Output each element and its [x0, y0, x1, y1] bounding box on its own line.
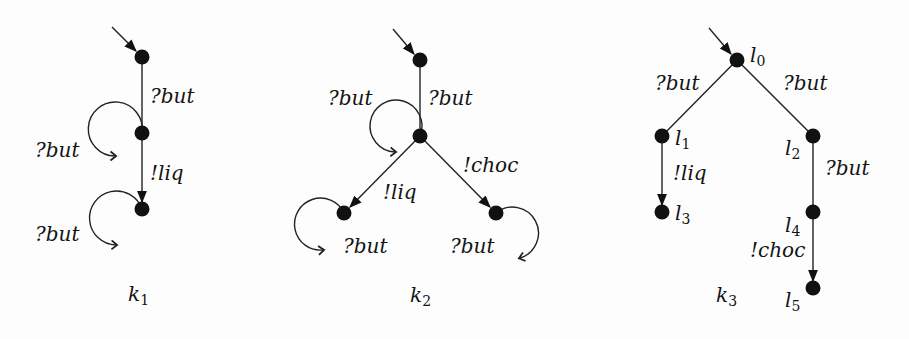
node-label-l1: l1	[675, 128, 690, 151]
edge-label: ?but	[150, 86, 194, 106]
loop-label: ?but	[35, 224, 79, 244]
edge-label: !choc	[463, 155, 518, 175]
node-label-sub: 2	[791, 146, 800, 162]
node-label-sub: 3	[681, 211, 690, 227]
node-label-l4: l4	[785, 215, 800, 238]
loop-label: ?but	[328, 88, 372, 108]
node-label-sub: 0	[756, 53, 765, 69]
edge-label: !liq	[673, 163, 707, 183]
caption-base: k	[128, 282, 140, 306]
loop-label: ?but	[450, 236, 494, 256]
node-label-sub: 5	[791, 298, 800, 314]
caption-sub: 2	[422, 293, 431, 309]
caption-sub: 1	[140, 292, 149, 308]
node-label-l3: l3	[675, 203, 690, 226]
edge-label: ?but	[428, 88, 472, 108]
node-label-sub: 4	[791, 223, 800, 239]
node-label-l2: l2	[785, 138, 800, 161]
initial-arrow	[709, 28, 731, 54]
edge-label: ?but	[783, 73, 827, 93]
state-node	[337, 206, 352, 221]
node-label-l5: l5	[785, 290, 800, 313]
edge-label: ?but	[825, 158, 869, 178]
self-loop-t1	[370, 100, 422, 152]
state-node-l4	[806, 205, 821, 220]
automaton-k1	[88, 27, 149, 245]
state-node	[413, 53, 428, 68]
caption-base: k	[410, 283, 422, 307]
state-node	[135, 50, 150, 65]
state-node-l3	[655, 205, 670, 220]
caption-k2: k2	[410, 285, 431, 308]
automaton-k2	[294, 29, 538, 258]
self-loop-t2	[294, 198, 344, 250]
initial-arrow	[112, 27, 136, 51]
state-node-l0	[730, 53, 745, 68]
loop-label: ?but	[343, 236, 387, 256]
caption-base: k	[716, 283, 728, 307]
caption-k3: k3	[716, 285, 737, 308]
node-label-l0: l0	[750, 45, 765, 68]
edge-label: !choc	[750, 240, 805, 260]
state-node-l5	[806, 281, 821, 296]
state-node	[413, 129, 428, 144]
caption-sub: 3	[728, 293, 737, 309]
state-node	[135, 202, 150, 217]
caption-k1: k1	[128, 284, 149, 307]
state-node-l1	[655, 129, 670, 144]
self-loop-s2	[90, 191, 142, 245]
state-node	[135, 126, 150, 141]
node-label-sub: 1	[681, 136, 690, 152]
state-node	[489, 206, 504, 221]
edge-label: ?but	[655, 73, 699, 93]
initial-arrow	[393, 29, 414, 54]
loop-label: ?but	[35, 140, 79, 160]
edge-label: !liq	[383, 182, 417, 202]
state-node-l2	[806, 129, 821, 144]
edge-label: !liq	[150, 163, 184, 183]
diagram-canvas: ?but ?but !liq ?but k1 ?but ?but !choc !…	[0, 0, 909, 339]
self-loop-s1	[88, 102, 142, 156]
